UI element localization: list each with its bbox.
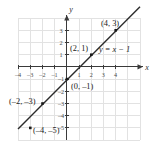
x-tick-label-1: 1 <box>77 71 80 78</box>
annotation-point-2-1: (2, 1) <box>70 44 88 53</box>
y-tick-label-neg3: –3 <box>57 100 64 107</box>
data-point-2-1 <box>90 53 93 56</box>
data-point-0-n1 <box>66 78 69 81</box>
x-axis-label: x <box>144 63 149 72</box>
data-point-n4-n5 <box>29 127 32 130</box>
x-axis-tick-labels: –4 –3 –2 –1 1 2 3 4 <box>14 71 117 78</box>
annotation-point-neg4-neg5: (–4, –5) <box>33 126 60 135</box>
x-tick-label-neg3: –3 <box>26 71 33 78</box>
y-tick-label-2: 2 <box>60 39 63 46</box>
y-tick-label-1: 1 <box>60 51 63 58</box>
coordinate-plane-figure: –4 –3 –2 –1 1 2 3 4 3 2 1 –1 –2 –3 –4 –5… <box>0 0 158 149</box>
x-tick-label-neg1: –1 <box>51 71 58 78</box>
equation-label: y = x − 1 <box>98 45 130 54</box>
y-axis-label: y <box>68 5 73 14</box>
y-tick-label-neg2: –2 <box>57 88 64 95</box>
y-tick-label-neg4: –4 <box>57 112 64 119</box>
y-tick-label-neg1: –1 <box>57 75 64 82</box>
line-graph-plot: –4 –3 –2 –1 1 2 3 4 3 2 1 –1 –2 –3 –4 –5… <box>0 0 158 149</box>
x-tick-label-2: 2 <box>90 71 93 78</box>
x-tick-label-3: 3 <box>102 71 105 78</box>
x-tick-label-neg4: –4 <box>14 71 21 78</box>
annotation-point-4-3: (4, 3) <box>101 19 119 28</box>
data-point-4-3 <box>114 29 117 32</box>
y-tick-label-3: 3 <box>60 27 63 34</box>
data-point-n2-n3 <box>41 102 44 105</box>
x-tick-label-4: 4 <box>114 71 117 78</box>
x-tick-label-neg2: –2 <box>38 71 45 78</box>
annotation-point-neg2-neg3: (–2, –3) <box>9 97 36 106</box>
annotation-point-0-neg1: (0, –1) <box>71 82 94 91</box>
grid-lines <box>18 18 140 140</box>
